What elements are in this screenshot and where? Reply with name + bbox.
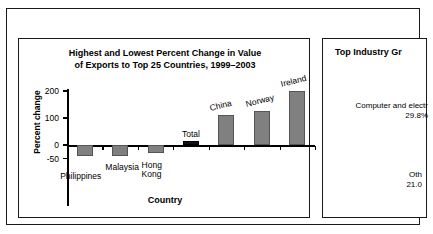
bar-malaysia [112,145,128,156]
bar-label-ireland: Ireland [280,74,307,89]
x-tick-mark [244,146,245,150]
y-tick-label: 0 [33,141,59,149]
y-tick-label: -50 [33,155,59,163]
bar-label-malaysia: Malaysia [96,163,148,172]
industry-item-1-label: Computer and electr [356,101,428,111]
industry-item-1-value: 29.8% [405,111,428,121]
industry-panel-title: Top Industry Gr [323,47,433,57]
chart-plot-area: Percent change 2001000-50 PhilippinesMal… [19,39,311,219]
bar-norway [254,111,270,145]
x-tick-mark [67,146,68,150]
industry-panel: Top Industry Gr Computer and electr 29.8… [322,38,427,218]
bar-ireland [289,91,305,145]
bar-label-total: Total [171,130,211,139]
industry-item-2-value: 21.0 [406,180,422,190]
x-tick-mark [173,146,174,150]
x-tick-mark [209,146,210,150]
x-tick-mark [138,146,139,150]
y-tick-mark [63,158,67,159]
bar-chart-panel: Highest and Lowest Percent Change in Val… [18,38,310,218]
y-tick-mark [63,117,67,118]
x-axis-line [67,145,315,147]
bar-philippines [77,145,93,156]
y-tick-mark [63,90,67,91]
x-tick-mark [315,146,316,150]
bar-total [183,141,199,145]
x-axis-label: Country [19,195,311,205]
bar-hong-kong [148,145,164,153]
x-tick-mark [102,146,103,150]
y-tick-label: 200 [33,87,59,95]
bar-label-hong-kong: HongKong [142,161,194,179]
industry-item-2-label: Oth [409,170,422,180]
y-tick-label: 100 [33,114,59,122]
bar-label-norway: Norway [245,93,275,109]
x-tick-mark [280,146,281,150]
bar-label-philippines: Philippines [55,172,107,181]
bar-china [218,115,234,145]
bar-label-china: China [209,99,233,113]
